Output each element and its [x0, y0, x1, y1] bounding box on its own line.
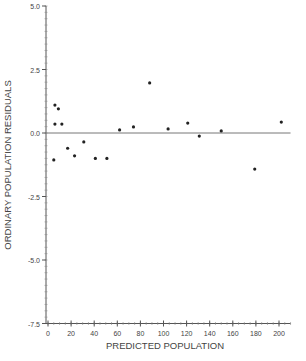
- data-point: [53, 103, 56, 106]
- y-tick-label: 5.0: [30, 3, 40, 10]
- data-points: [52, 81, 283, 170]
- data-point: [57, 107, 60, 110]
- data-point: [53, 123, 56, 126]
- data-point: [167, 127, 170, 130]
- data-point: [82, 140, 85, 143]
- data-point: [60, 123, 63, 126]
- y-axis: 5.02.50.0-2.5-5.0-7.5: [28, 3, 48, 328]
- data-point: [66, 147, 69, 150]
- x-tick-label: 180: [250, 330, 262, 337]
- data-point: [73, 154, 76, 157]
- x-tick-label: 60: [113, 330, 121, 337]
- y-tick-label: -2.5: [28, 194, 40, 201]
- data-point: [118, 128, 121, 131]
- x-tick-label: 40: [90, 330, 98, 337]
- data-point: [198, 134, 201, 137]
- x-tick-label: 0: [46, 330, 50, 337]
- x-tick-label: 100: [158, 330, 170, 337]
- x-tick-label: 140: [204, 330, 216, 337]
- y-tick-label: -7.5: [28, 321, 40, 328]
- y-tick-label: -5.0: [28, 257, 40, 264]
- y-tick-label: 0.0: [30, 130, 40, 137]
- data-point: [94, 157, 97, 160]
- x-axis-label: PREDICTED POPULATION: [106, 340, 224, 351]
- x-tick-label: 80: [137, 330, 145, 337]
- data-point: [52, 158, 55, 161]
- data-point: [105, 157, 108, 160]
- data-point: [280, 120, 283, 123]
- data-point: [132, 125, 135, 128]
- x-tick-label: 160: [227, 330, 239, 337]
- x-tick-label: 120: [181, 330, 193, 337]
- y-axis-label: ORDINARY POPULATION RESIDUALS: [2, 80, 13, 249]
- x-axis: 020406080100120140160180200: [46, 321, 291, 337]
- x-tick-label: 20: [67, 330, 75, 337]
- data-point: [220, 129, 223, 132]
- data-point: [186, 121, 189, 124]
- y-tick-label: 2.5: [30, 67, 40, 74]
- data-point: [148, 81, 151, 84]
- data-point: [253, 167, 256, 170]
- x-tick-label: 200: [273, 330, 285, 337]
- residual-scatter-chart: 5.02.50.0-2.5-5.0-7.5 020406080100120140…: [0, 0, 306, 361]
